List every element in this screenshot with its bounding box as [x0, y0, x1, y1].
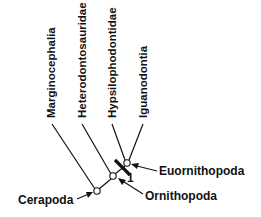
arrow-euornithopoda — [131, 163, 157, 171]
branch-heterodontosauridae — [82, 124, 111, 174]
branch-cerapoda-ornithopoda — [99, 179, 111, 189]
clade-label-cerapoda: Cerapoda — [18, 193, 74, 207]
clade-label-euornithopoda: Euornithopoda — [159, 164, 245, 178]
branch-hypsilophodontidae — [112, 124, 125, 160]
node-euornithopoda — [124, 160, 130, 166]
node-ornithopoda — [110, 173, 116, 179]
taxon-label-marginocephalia: Marginocephalia — [45, 27, 57, 118]
taxon-label-heterodontosauridae: Heterodontosauridae — [76, 2, 88, 118]
branch-marginocephalia — [52, 124, 95, 189]
taxon-label-hypsilophodontidae: Hypsilophodontidae — [106, 7, 118, 118]
clade-label-ornithopoda: Ornithopoda — [145, 189, 217, 203]
cladogram: Marginocephalia Heterodontosauridae Hyps… — [0, 0, 261, 217]
taxon-label-iguanodontia: Iguanodontia — [137, 45, 149, 118]
branch-iguanodontia — [129, 124, 143, 160]
synapomorphy-label: 1 — [127, 171, 134, 185]
arrow-cerapoda — [77, 192, 93, 199]
node-cerapoda — [94, 188, 100, 194]
